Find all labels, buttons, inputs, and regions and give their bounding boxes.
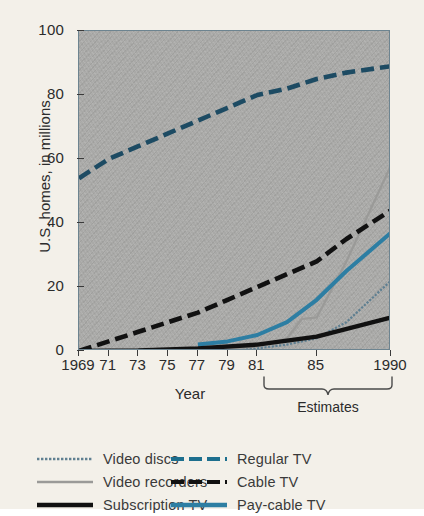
x-tick-label: 1969 [61,356,94,373]
legend-item-subscription-tv[interactable]: Subscription TV [36,493,158,516]
series-lines [79,31,390,350]
legend-label-cable-tv: Cable TV [237,474,298,490]
x-tick-label: 77 [189,356,206,373]
x-tick-label: 71 [99,356,116,373]
estimates-brace-icon [262,376,394,398]
x-axis-title: Year [175,385,205,402]
dashed-line-swatch-regular-tv [170,452,228,466]
y-tick-mark [77,30,84,31]
dotted-line-swatch [36,452,94,466]
y-tick-label: 100 [0,21,64,38]
y-tick-label: 40 [0,213,64,230]
x-tick-label: 75 [159,356,176,373]
thick-line-swatch [36,498,94,512]
series-line-regular-tv [79,66,390,178]
chart-legend: Video discs Regular TV Video recorders [36,447,386,516]
x-tick-label: 1990 [373,356,406,373]
x-tick-label: 81 [248,356,265,373]
y-tick-mark [77,94,84,95]
x-tick-label: 73 [129,356,146,373]
legend-label-pay-cable-tv: Pay-cable TV [237,497,326,513]
y-tick-label: 20 [0,277,64,294]
y-tick-label: 0 [0,341,64,358]
plot-area [78,30,390,350]
thin-line-swatch [36,475,94,489]
y-axis-title: U.S. homes, in millions [36,67,53,287]
legend-item-video-discs[interactable]: Video discs [36,447,158,470]
solid-line-swatch [170,498,228,512]
y-tick-mark [77,222,84,223]
x-tick-label: 85 [307,356,324,373]
legend-label-regular-tv: Regular TV [237,451,312,467]
legend-label-video-discs: Video discs [103,451,179,467]
dashed-line-swatch-cable-tv [170,475,228,489]
legend-item-pay-cable-tv[interactable]: Pay-cable TV [170,493,386,516]
legend-item-cable-tv[interactable]: Cable TV [170,470,386,493]
y-tick-mark [77,286,84,287]
x-tick-label: 79 [218,356,235,373]
y-tick-label: 60 [0,149,64,166]
legend-item-video-recorders[interactable]: Video recorders [36,470,158,493]
y-tick-label: 80 [0,85,64,102]
estimates-label: Estimates [297,399,358,415]
legend-item-regular-tv[interactable]: Regular TV [170,447,386,470]
y-tick-mark [77,158,84,159]
